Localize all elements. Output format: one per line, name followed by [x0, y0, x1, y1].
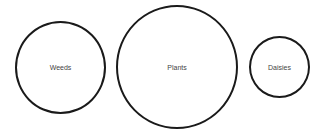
circle-plants: Plants: [116, 5, 238, 129]
circle-weeds: Weeds: [15, 21, 106, 114]
circle-label-weeds: Weeds: [50, 64, 72, 71]
circle-label-daisies: Daisies: [268, 64, 291, 71]
circle-daisies: Daisies: [249, 36, 310, 98]
circle-label-plants: Plants: [167, 64, 186, 71]
set-diagram: Weeds Plants Daisies: [0, 0, 326, 139]
